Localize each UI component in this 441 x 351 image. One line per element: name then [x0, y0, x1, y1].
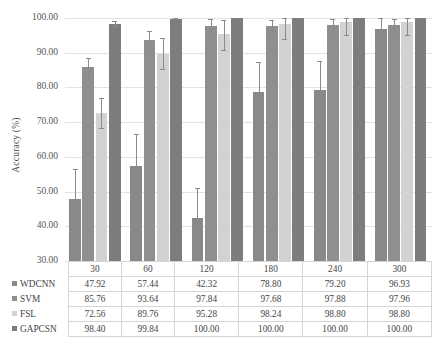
error-bar-cap	[173, 19, 178, 20]
error-bar-cap	[317, 119, 322, 120]
y-axis-tick: 60.00	[0, 152, 58, 162]
table-row: FSL72.5689.7695.2898.2498.8098.80	[9, 307, 432, 322]
error-bar-cap	[195, 246, 200, 247]
error-bar-cap	[269, 32, 274, 33]
bar-wdcnn-300	[375, 29, 387, 261]
error-bar-line	[346, 18, 347, 35]
chart-figure: Accuracy (%) 30.0040.0050.0060.0070.0080…	[0, 0, 441, 351]
table-column-header: 30	[69, 262, 122, 277]
table-cell: 97.88	[303, 292, 367, 307]
table-header-row: 3060120180240300	[9, 262, 432, 277]
error-bar-cap	[147, 31, 152, 32]
error-bar-cap	[86, 58, 91, 59]
table-cell: 98.80	[303, 307, 367, 322]
legend-item-svm: SVM	[9, 292, 69, 307]
table-column-header: 120	[174, 262, 238, 277]
legend-swatch-icon	[12, 296, 17, 301]
bar-gapcsn-30	[109, 24, 121, 261]
bar-gapcsn-240	[353, 18, 365, 261]
error-bar-line	[149, 31, 150, 49]
bar-svm-30	[82, 67, 94, 261]
error-bar-line	[101, 98, 102, 128]
error-bar-cap	[147, 49, 152, 50]
table-cell: 98.40	[69, 322, 122, 337]
bar-fsl-120	[218, 34, 230, 261]
table-row: WDCNN47.9257.4442.3278.8079.2096.93	[9, 277, 432, 292]
legend-swatch-icon	[12, 281, 17, 286]
table-column-header: 180	[239, 262, 303, 277]
error-bar-line	[197, 188, 198, 246]
bar-svm-60	[144, 40, 156, 261]
error-bar-cap	[134, 195, 139, 196]
bar-svm-120	[205, 26, 217, 262]
y-axis-title: Accuracy (%)	[11, 90, 21, 200]
table-cell: 99.84	[121, 322, 174, 337]
bar-svm-180	[266, 26, 278, 261]
table-column-header: 60	[121, 262, 174, 277]
table-cell: 97.68	[239, 292, 303, 307]
table-cell: 97.96	[367, 292, 431, 307]
error-bar-cap	[256, 62, 261, 63]
error-bar-cap	[378, 18, 383, 19]
error-bar-cap	[405, 18, 410, 19]
error-bar-line	[163, 38, 164, 69]
error-bar-cap	[392, 32, 397, 33]
error-bar-cap	[99, 128, 104, 129]
legend-label: GAPCSN	[20, 324, 57, 334]
table-row: GAPCSN98.4099.84100.00100.00100.00100.00	[9, 322, 432, 337]
error-bar-line	[259, 62, 260, 121]
error-bar-line	[333, 19, 334, 31]
error-bar-line	[88, 58, 89, 76]
error-bar-cap	[282, 18, 287, 19]
table-column-header: 240	[303, 262, 367, 277]
table-cell: 100.00	[174, 322, 238, 337]
table-cell: 72.56	[69, 307, 122, 322]
error-bar-line	[136, 134, 137, 195]
table-cell: 96.93	[367, 277, 431, 292]
error-bar-cap	[221, 50, 226, 51]
bar-gapcsn-180	[292, 18, 304, 261]
bar-group	[126, 18, 187, 261]
table-cell: 79.20	[303, 277, 367, 292]
y-axis-tick: 100.00	[0, 13, 58, 23]
error-bar-line	[394, 19, 395, 31]
error-bar-cap	[160, 38, 165, 39]
error-bar-line	[211, 19, 212, 31]
table-cell: 42.32	[174, 277, 238, 292]
legend-label: FSL	[20, 309, 36, 319]
error-bar-cap	[344, 35, 349, 36]
legend-item-wdcnn: WDCNN	[9, 277, 69, 292]
table-cell: 100.00	[367, 322, 431, 337]
bar-fsl-180	[279, 24, 291, 261]
error-bar-cap	[256, 121, 261, 122]
error-bar-line	[224, 20, 225, 50]
table-cell: 100.00	[239, 322, 303, 337]
bar-group	[371, 18, 432, 261]
legend-item-fsl: FSL	[9, 307, 69, 322]
bar-gapcsn-60	[170, 19, 182, 261]
table-corner-cell	[9, 262, 69, 277]
data-table: 3060120180240300WDCNN47.9257.4442.3278.8…	[9, 261, 432, 337]
plot-area	[65, 18, 432, 261]
error-bar-line	[75, 169, 76, 229]
table-cell: 85.76	[69, 292, 122, 307]
bar-svm-300	[388, 25, 400, 261]
error-bar-cap	[378, 58, 383, 59]
y-axis-tick: 70.00	[0, 117, 58, 127]
legend-label: SVM	[20, 294, 40, 304]
bar-group	[187, 18, 248, 261]
error-bar-cap	[112, 26, 117, 27]
legend-item-gapcsn: GAPCSN	[9, 322, 69, 337]
y-axis-tick: 80.00	[0, 82, 58, 92]
error-bar-cap	[330, 32, 335, 33]
bar-group	[310, 18, 371, 261]
table-cell: 98.24	[239, 307, 303, 322]
bar-group	[249, 18, 310, 261]
bar-svm-240	[327, 25, 339, 261]
error-bar-cap	[112, 21, 117, 22]
error-bar-cap	[392, 19, 397, 20]
table-cell: 89.76	[121, 307, 174, 322]
table-cell: 78.80	[239, 277, 303, 292]
error-bar-line	[272, 20, 273, 32]
error-bar-cap	[73, 229, 78, 230]
